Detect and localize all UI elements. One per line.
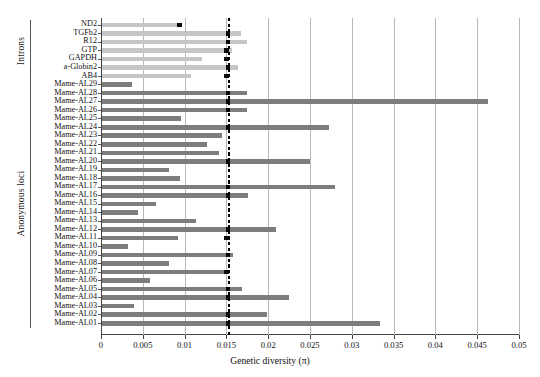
bar [102, 287, 242, 292]
x-tick-label: 0.045 [468, 340, 487, 350]
x-tick [435, 335, 436, 339]
bar [102, 159, 310, 164]
y-tick [98, 127, 101, 128]
bar [102, 304, 134, 309]
y-tick [98, 187, 101, 188]
bar [102, 185, 335, 190]
y-tick [98, 110, 101, 111]
bar [102, 151, 219, 156]
group-bracket [30, 79, 31, 328]
x-tick [519, 335, 520, 339]
median-marker [177, 23, 181, 28]
bar [102, 168, 169, 173]
y-tick [98, 42, 101, 43]
bar [102, 278, 150, 283]
bar [102, 202, 156, 207]
group-label: Introns [16, 20, 26, 81]
y-tick [98, 76, 101, 77]
gridline [394, 18, 395, 335]
y-tick [98, 246, 101, 247]
y-tick [98, 50, 101, 51]
y-tick [98, 289, 101, 290]
bar [102, 116, 181, 121]
x-tick [226, 335, 227, 339]
reference-line [228, 18, 231, 335]
y-tick [98, 272, 101, 273]
y-tick [98, 59, 101, 60]
bar [102, 142, 207, 147]
x-axis-title: Genetic diversity (π) [0, 355, 540, 366]
y-tick [98, 101, 101, 102]
y-tick [98, 33, 101, 34]
y-tick [98, 280, 101, 281]
bar [102, 125, 329, 130]
y-tick [98, 161, 101, 162]
y-tick [98, 67, 101, 68]
y-tick [98, 195, 101, 196]
figure-root: ND2TGFb2R12GTPGAPDHa-Globin2AB4Mame-AL29… [0, 0, 540, 377]
y-tick [98, 314, 101, 315]
category-label: Mame-AL01 [54, 319, 97, 327]
bar [102, 261, 169, 266]
y-tick [98, 178, 101, 179]
y-tick [98, 118, 101, 119]
bar [102, 31, 241, 36]
gridline [435, 18, 436, 335]
x-tick [310, 335, 311, 339]
plot-area [101, 18, 519, 335]
y-tick [98, 263, 101, 264]
x-tick [185, 335, 186, 339]
x-tick-label: 0.02 [261, 340, 276, 350]
x-tick-label: 0.015 [217, 340, 236, 350]
x-tick-label: 0.04 [428, 340, 443, 350]
bar [102, 99, 488, 104]
bar [102, 295, 289, 300]
y-tick [98, 204, 101, 205]
bar [102, 312, 267, 317]
x-tick-label: 0.05 [511, 340, 526, 350]
y-tick [98, 153, 101, 154]
x-tick [352, 335, 353, 339]
x-tick-label: 0.03 [344, 340, 359, 350]
y-tick [98, 84, 101, 85]
x-tick-label: 0.035 [384, 340, 403, 350]
y-tick [98, 297, 101, 298]
bar [102, 176, 180, 181]
bar [102, 227, 276, 232]
x-tick-label: 0.005 [133, 340, 152, 350]
bar [102, 219, 196, 224]
x-tick [268, 335, 269, 339]
y-tick [98, 229, 101, 230]
group-bracket [30, 20, 31, 81]
y-tick [98, 135, 101, 136]
y-tick [98, 25, 101, 26]
y-tick [98, 170, 101, 171]
bar [102, 23, 181, 28]
gridline [268, 18, 269, 335]
bar [102, 48, 232, 53]
bar [102, 57, 202, 62]
gridline [310, 18, 311, 335]
bar [102, 270, 227, 275]
gridline [477, 18, 478, 335]
bar [102, 74, 191, 79]
x-tick [394, 335, 395, 339]
y-tick [98, 238, 101, 239]
bar [102, 82, 132, 87]
y-tick [98, 255, 101, 256]
bar [102, 321, 380, 326]
y-tick [98, 323, 101, 324]
group-label: Anonymous loci [16, 79, 26, 328]
x-tick [101, 335, 102, 339]
y-tick [98, 144, 101, 145]
bar [102, 253, 233, 258]
gridline [352, 18, 353, 335]
x-tick [143, 335, 144, 339]
y-tick [98, 221, 101, 222]
gridline [519, 18, 520, 335]
bar [102, 244, 128, 249]
bar [102, 133, 222, 138]
y-tick [98, 306, 101, 307]
x-tick-label: 0 [99, 340, 103, 350]
x-tick [477, 335, 478, 339]
